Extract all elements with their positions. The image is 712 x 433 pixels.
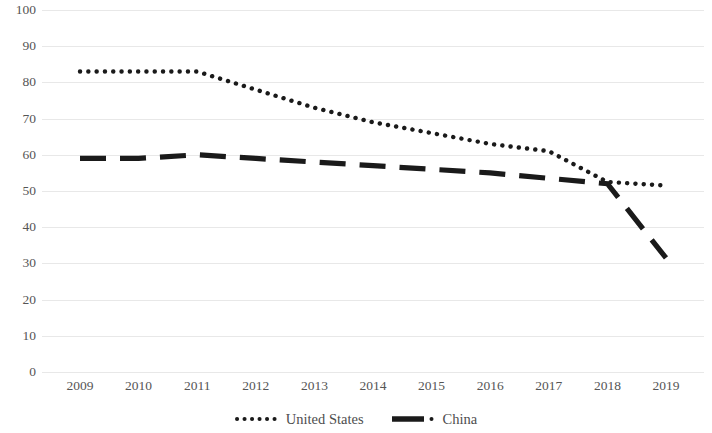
y-tick-label: 90 [0, 39, 36, 53]
x-tick-label: 2010 [125, 378, 152, 394]
dashed-line-marker [390, 413, 434, 425]
y-tick-label: 20 [0, 293, 36, 307]
legend-entry-china: China [390, 411, 478, 427]
x-tick-label: 2016 [477, 378, 504, 394]
x-tick-label: 2018 [594, 378, 621, 394]
plot-area [42, 10, 704, 372]
x-tick-label: 2019 [653, 378, 680, 394]
series-line-united-states [80, 72, 666, 186]
y-axis: 0102030405060708090100 [0, 0, 36, 382]
x-axis: 2009201020112012201320142015201620172018… [42, 378, 704, 400]
legend-label-united-states: United States [286, 411, 364, 427]
legend-entry-united-states: United States [235, 411, 364, 427]
x-tick-label: 2013 [301, 378, 328, 394]
y-tick-label: 60 [0, 148, 36, 162]
x-tick-label: 2011 [184, 378, 211, 394]
legend-label-china: China [443, 411, 478, 427]
y-tick-label: 100 [0, 3, 36, 17]
gridline [42, 372, 704, 373]
y-tick-label: 80 [0, 75, 36, 89]
x-tick-label: 2012 [242, 378, 269, 394]
y-tick-label: 40 [0, 220, 36, 234]
y-tick-label: 50 [0, 184, 36, 198]
series-line-china [80, 155, 666, 258]
x-tick-label: 2017 [535, 378, 562, 394]
y-tick-label: 70 [0, 112, 36, 126]
y-tick-label: 0 [0, 365, 36, 379]
x-tick-label: 2014 [360, 378, 387, 394]
x-tick-label: 2009 [67, 378, 94, 394]
chart-legend: United States China [0, 405, 712, 433]
dotted-line-marker [235, 413, 279, 425]
x-tick-label: 2015 [418, 378, 445, 394]
line-chart: 0102030405060708090100 20092010201120122… [0, 0, 712, 433]
y-tick-label: 10 [0, 329, 36, 343]
series-layer [42, 10, 704, 372]
y-tick-label: 30 [0, 256, 36, 270]
